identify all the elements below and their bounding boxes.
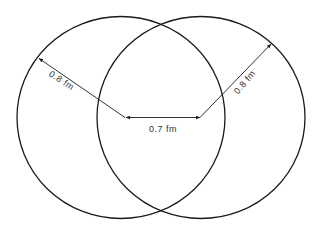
left-radius-label: 0.8 fm [47, 69, 76, 93]
right-radius-arrow [200, 44, 271, 118]
overlapping-circles-diagram: 0.8 fm 0.8 fm 0.7 fm [0, 0, 320, 229]
right-radius-label: 0.8 fm [232, 68, 258, 96]
center-distance-label: 0.7 fm [149, 124, 177, 134]
left-radius-arrow [39, 59, 125, 118]
